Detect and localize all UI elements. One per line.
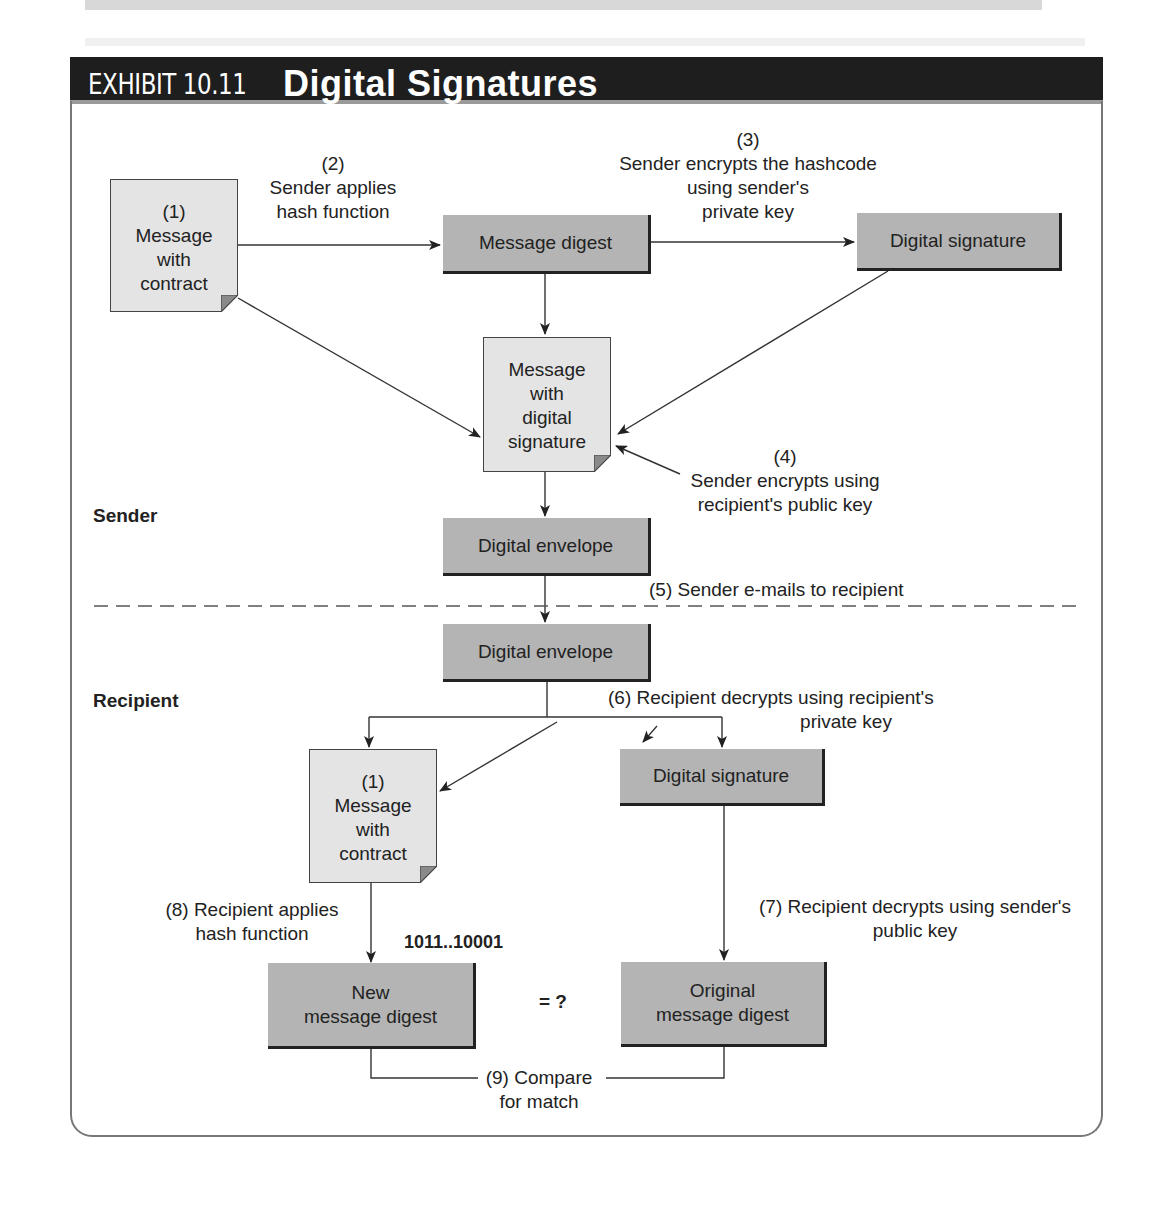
- recipient-digital-envelope-box: Digital envelope: [443, 624, 651, 682]
- original-message-digest-box: Original message digest: [621, 962, 827, 1047]
- doc-text: contract: [135, 272, 212, 296]
- sender-message-document: (1) Message with contract: [110, 179, 238, 312]
- recipient-digital-signature-box: Digital signature: [620, 749, 825, 806]
- new-message-digest-box: New message digest: [268, 963, 476, 1049]
- signed-message-document: Message with digital signature: [483, 337, 611, 472]
- document-fold-icon: [221, 295, 238, 312]
- hash-value: 1011..10001: [404, 930, 503, 954]
- document-fold-icon: [594, 455, 611, 472]
- sender-digital-envelope-box: Digital envelope: [443, 518, 651, 576]
- recipient-message-document: (1) Message with contract: [309, 749, 437, 883]
- document-fold-icon: [420, 866, 437, 883]
- step4-label: (4) Sender encrypts using recipient's pu…: [674, 445, 896, 517]
- doc-text: Message: [135, 224, 212, 248]
- step5-label: (5) Sender e-mails to recipient: [649, 578, 904, 602]
- sender-section-label: Sender: [93, 504, 157, 528]
- step2-label: (2) Sender applies hash function: [258, 152, 408, 224]
- recipient-section-label: Recipient: [93, 689, 179, 713]
- step7-label: (7) Recipient decrypts using sender's pu…: [745, 895, 1085, 943]
- step6-label: (6) Recipient decrypts using recipient's…: [608, 686, 964, 734]
- step9-label: (9) Compare for match: [474, 1066, 604, 1114]
- step-number: (1): [135, 200, 212, 224]
- equality-check: = ?: [528, 990, 578, 1014]
- doc-text: with: [135, 248, 212, 272]
- step8-label: (8) Recipient applies hash function: [156, 898, 348, 946]
- step3-label: (3) Sender encrypts the hashcode using s…: [598, 128, 898, 224]
- sender-digital-signature-box: Digital signature: [857, 213, 1062, 271]
